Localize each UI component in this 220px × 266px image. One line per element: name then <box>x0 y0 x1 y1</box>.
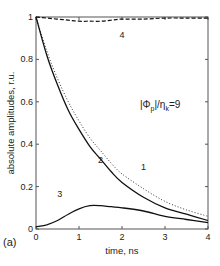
curve-1 <box>36 17 208 216</box>
x-tick-label: 1 <box>76 232 81 242</box>
x-tick-label: 4 <box>205 232 210 242</box>
x-tick-label: 3 <box>162 232 167 242</box>
y-tick-label: 0 <box>28 224 33 234</box>
curve-label-4: 4 <box>119 30 124 40</box>
curve-label-1: 1 <box>141 162 146 172</box>
x-tick-label: 2 <box>119 232 124 242</box>
curve-3 <box>36 205 208 226</box>
y-axis-label: absolute amplitudes, r.u. <box>5 72 16 175</box>
y-tick-label: 0.4 <box>20 139 33 149</box>
parameter-annotation: |Φp|/ηk=9 <box>140 99 181 113</box>
curve-label-2: 2 <box>98 155 103 165</box>
chart: 0123400.20.40.60.81time, nsabsolute ampl… <box>0 0 220 266</box>
x-tick-label: 0 <box>33 232 38 242</box>
curve-label-3: 3 <box>57 189 62 199</box>
plot-axes: 0123400.20.40.60.81time, nsabsolute ampl… <box>3 12 211 256</box>
x-axis-label: time, ns <box>105 245 139 256</box>
y-tick-label: 0.6 <box>20 97 33 107</box>
y-tick-label: 0.8 <box>20 54 33 64</box>
y-tick-label: 1 <box>28 12 33 22</box>
panel-label: (a) <box>3 236 16 248</box>
y-tick-label: 0.2 <box>20 182 33 192</box>
